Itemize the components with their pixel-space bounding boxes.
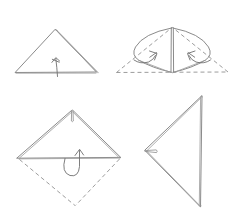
panel-3-lower-left-edge-dashed	[20, 160, 76, 206]
panel-3-lower-right-edge-dashed	[76, 159, 120, 206]
panel-1-triangle-outline	[16, 30, 97, 73]
panel-2-base-dashed-line	[117, 72, 229, 73]
panel-4-inner-upper-edge	[147, 98, 201, 151]
panel-1-top-left	[16, 30, 99, 77]
panel-3-uturn-fold-arrow	[64, 149, 84, 176]
diagram-canvas	[0, 0, 233, 220]
panel-3-upper-left-inner-edge	[20, 112, 72, 158]
origami-diagram-sheet	[0, 0, 233, 220]
panel-3-upper-left-edge	[17, 111, 72, 159]
panel-2-left-flap-inner-crease	[139, 60, 171, 72]
panel-2-left-fold-arrow	[134, 51, 157, 63]
panel-2-right-slope-dashed	[173, 28, 229, 73]
panel-2-left-slope-dashed	[117, 28, 173, 73]
panel-3-top-vertex-sliver	[71, 110, 73, 122]
panel-4-inner-lower-edge	[147, 151, 200, 205]
panel-1-layer-edge-right-inner	[58, 32, 98, 73]
panel-1-layer-edge-right	[57, 30, 98, 72]
panel-4-bottom-right	[145, 96, 203, 207]
panel-2-center-crease-bottom-cap	[171, 72, 174, 73]
panel-2-top-right	[117, 27, 229, 73]
panel-1-fold-arrow	[52, 58, 60, 77]
panel-3-bottom-left	[17, 110, 121, 205]
panel-4-triangle-outline	[145, 96, 202, 207]
panel-3-arrow-loop	[64, 151, 80, 176]
panel-2-center-crease-top-cap	[171, 27, 173, 28]
panel-2-right-flap-inner-crease	[174, 60, 206, 72]
panel-2-right-fold-arrow	[188, 51, 211, 63]
